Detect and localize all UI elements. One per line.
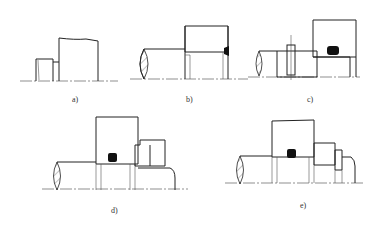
panel-e-label: e) bbox=[300, 201, 306, 210]
panel-e-drawing bbox=[225, 120, 363, 184]
panel-d-drawing bbox=[42, 117, 188, 190]
panel-c-label: c) bbox=[307, 95, 313, 104]
panel-b-drawing bbox=[130, 26, 248, 79]
panel-d-label: d) bbox=[111, 206, 118, 215]
panel-b-label: b) bbox=[186, 95, 193, 104]
technical-diagram bbox=[0, 0, 377, 226]
panel-a-label: a) bbox=[72, 95, 78, 104]
panel-c-drawing bbox=[248, 20, 360, 80]
panel-a-drawing bbox=[20, 38, 118, 81]
